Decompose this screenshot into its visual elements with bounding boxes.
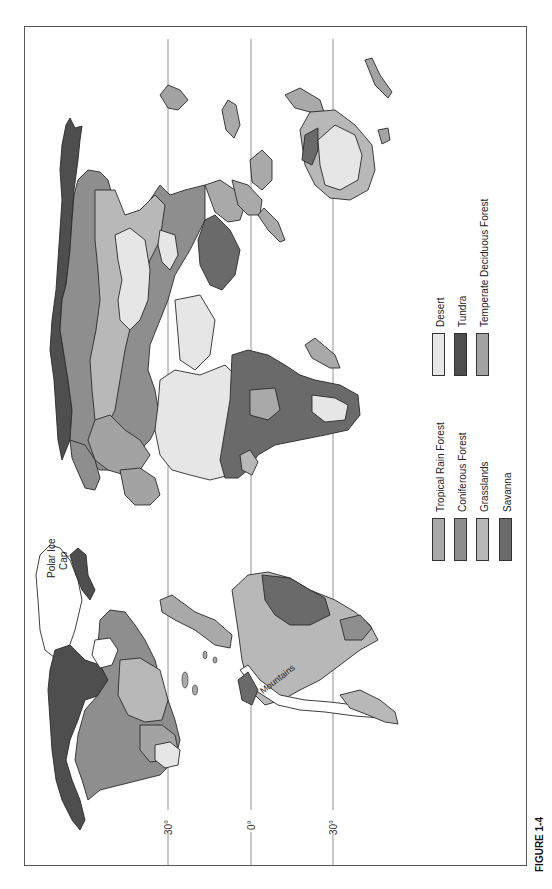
latitude-label-30n: 30° [163,820,174,835]
legend-label-grasslands: Grasslands [479,461,490,512]
polar-ice-cap-label-line1: Polar Ice [46,539,57,578]
legend-label-savanna: Savanna [502,473,513,512]
world-biome-map [0,0,552,889]
latitude-label-equator: 0° [246,820,257,830]
legend-swatch-tropical-rain-forest [432,518,445,561]
legend-swatch-tundra [454,333,467,376]
legend-label-tropical-rain-forest: Tropical Rain Forest [435,422,446,512]
new-zealand [365,58,392,98]
sumatra-rainforest [258,208,285,242]
legend-label-coniferous-forest: Coniferous Forest [457,433,468,512]
madagascar [305,338,340,368]
central-america [160,595,232,648]
patagonia [340,690,398,724]
legend-swatch-coniferous-forest [454,518,467,561]
polar-ice-cap-label-line2: Cap [58,552,69,570]
figure-caption: FIGURE 1-4 [534,817,545,872]
india-savanna [198,215,240,290]
legend-label-temperate-deciduous-forest: Temperate Deciduous Forest [479,199,490,327]
legend-swatch-desert [432,333,445,376]
polar-ice-cap-label: Polar Ice [46,539,57,578]
polar-ice-cap-label-2: Cap [58,552,69,570]
europe-deciduous [120,468,160,505]
legend-label-desert: Desert [435,298,446,327]
latitude-label-30s: 30° [328,820,339,835]
arabia-desert [175,295,215,370]
tasmania [378,128,390,144]
legend-swatch-temperate-deciduous-forest [476,333,489,376]
borneo-rainforest [250,150,272,190]
philippines-rainforest [222,100,240,138]
legend-swatch-grasslands [476,518,489,561]
legend-swatch-savanna [499,518,512,561]
japan-deciduous [160,85,188,110]
legend-label-tundra: Tundra [457,296,468,327]
